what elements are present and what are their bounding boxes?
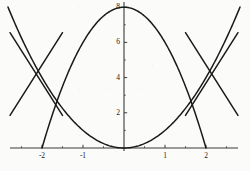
plot-area — [0, 0, 250, 171]
x-axis-tick-label: 2 — [204, 152, 208, 160]
y-axis-tick-label: 6 — [116, 39, 120, 47]
y-axis-tick-label: 4 — [116, 74, 120, 82]
chart-figure: -2-1122468 — [0, 0, 250, 171]
y-axis-tick-label: 2 — [116, 109, 120, 117]
x-axis-tick-label: -2 — [39, 152, 45, 160]
x-axis-tick-label: -1 — [80, 152, 86, 160]
y-axis-tick-label: 8 — [116, 3, 120, 11]
x-axis-tick-label: 1 — [163, 152, 167, 160]
